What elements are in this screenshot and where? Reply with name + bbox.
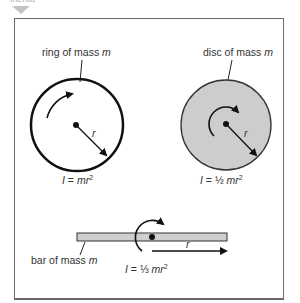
ring-formula: I = mr2 [62, 174, 93, 186]
moment-of-inertia-diagram: ring of mass m r I = mr2 disc of mass m … [0, 0, 300, 303]
bar-formula: I = ⅓ mr2 [125, 263, 168, 275]
bar-label: bar of mass m [31, 254, 98, 266]
disc-leader-line [228, 60, 232, 80]
disc-formula: I = ½ mr2 [200, 174, 243, 186]
ring-figure: ring of mass m r I = mr2 [31, 46, 123, 186]
ring-radius-arrow [76, 125, 106, 155]
disc-label: disc of mass m [203, 46, 273, 58]
bar-center-dot [149, 234, 155, 240]
ring-radius-label: r [92, 127, 96, 139]
bar-figure: r bar of mass m I = ⅓ mr2 [31, 220, 227, 275]
disc-figure: disc of mass m r I = ½ mr2 [181, 46, 273, 186]
disc-radius-label: r [244, 127, 248, 139]
rotation-arrow-icon [47, 94, 72, 118]
bar-radius-label: r [186, 238, 190, 250]
ring-label: ring of mass m [42, 46, 111, 58]
